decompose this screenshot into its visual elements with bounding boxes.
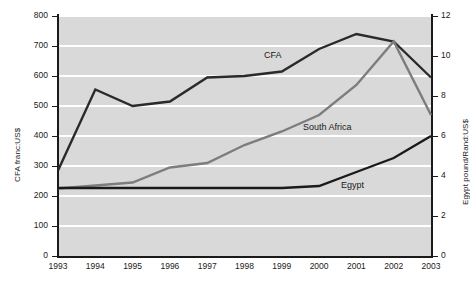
series-label-egypt: Egypt xyxy=(341,180,364,190)
series-line-south-africa xyxy=(58,42,431,189)
y-axis-left-title: CFA franc:US$ xyxy=(13,128,22,182)
series-line-cfa xyxy=(58,34,431,171)
series-label-south-africa: South Africa xyxy=(303,122,352,132)
series-label-cfa: CFA xyxy=(264,50,282,60)
y-axis-right-title: Egypt pound/Rand:US$ xyxy=(461,119,470,205)
